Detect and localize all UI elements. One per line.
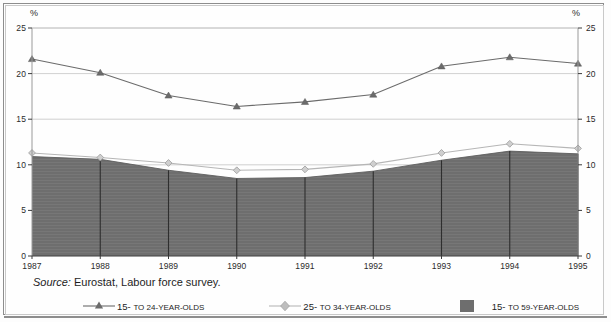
- y-tick-label-left-5: 5: [8, 205, 26, 215]
- x-tick-label-1993: 1993: [422, 261, 462, 271]
- x-tick-label-1988: 1988: [80, 261, 120, 271]
- filled-area-swatch-icon: [460, 300, 474, 312]
- y-tick-label-right-25: 25: [586, 23, 604, 33]
- source-note: Source: Eurostat, Labour force survey.: [33, 276, 221, 288]
- legend-label-25-34: 25- TO 34-YEAR-OLDS: [303, 301, 390, 312]
- y-axis-unit-left: %: [30, 8, 38, 18]
- legend-item-15-59[interactable]: 15- TO 59-YEAR-OLDS: [449, 298, 579, 314]
- x-tick-label-1992: 1992: [353, 261, 393, 271]
- y-tick-label-right-5: 5: [586, 205, 604, 215]
- y-tick-label-right-15: 15: [586, 114, 604, 124]
- x-tick-label-1990: 1990: [217, 261, 257, 271]
- chart-canvas: [0, 0, 611, 322]
- x-tick-label-1995: 1995: [558, 261, 598, 271]
- y-tick-label-right-10: 10: [586, 160, 604, 170]
- y-tick-label-left-0: 0: [8, 251, 26, 261]
- legend-item-15-24[interactable]: 15- TO 24-YEAR-OLDS: [81, 298, 204, 314]
- y-axis-unit-right: %: [572, 8, 580, 18]
- triangle-line-marker-icon: [81, 299, 117, 313]
- y-tick-label-right-0: 0: [586, 251, 604, 261]
- y-tick-label-left-15: 15: [8, 114, 26, 124]
- x-tick-label-1989: 1989: [149, 261, 189, 271]
- source-value: Eurostat, Labour force survey.: [71, 276, 221, 288]
- legend-label-15-59: 15- TO 59-YEAR-OLDS: [492, 301, 579, 312]
- legend-item-25-34[interactable]: 25- TO 34-YEAR-OLDS: [267, 298, 390, 314]
- x-tick-label-1991: 1991: [285, 261, 325, 271]
- diamond-line-marker-icon: [267, 299, 303, 313]
- y-tick-label-right-20: 20: [586, 69, 604, 79]
- x-tick-label-1994: 1994: [490, 261, 530, 271]
- legend-label-15-24: 15- TO 24-YEAR-OLDS: [117, 301, 204, 312]
- chart-page: % % 0510152025 0510152025 19871988198919…: [0, 0, 611, 322]
- bottom-rule: [4, 316, 607, 318]
- x-tick-label-1987: 1987: [12, 261, 52, 271]
- plot-area: [0, 0, 611, 322]
- y-tick-label-left-20: 20: [8, 69, 26, 79]
- chart-legend: 15- TO 24-YEAR-OLDS 25- TO 34-YEAR-OLDS …: [33, 298, 579, 314]
- y-tick-label-left-10: 10: [8, 160, 26, 170]
- source-label: Source:: [33, 276, 71, 288]
- y-tick-label-left-25: 25: [8, 23, 26, 33]
